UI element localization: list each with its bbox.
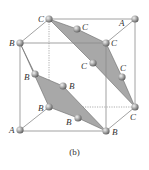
label-c-top-back-left: C: [38, 14, 45, 24]
atom-c-back-bottom-right: [131, 103, 138, 110]
edge-bottom-left-depth: [20, 107, 49, 130]
label-c-front-top-right: C: [111, 38, 118, 48]
atom-b-left-mid: [31, 70, 38, 77]
atom-b-center: [59, 82, 66, 89]
atom-c-right-mid: [118, 73, 125, 80]
label-c-right-mid: C: [120, 63, 127, 73]
label-a-front-bottom-left: A: [8, 125, 15, 135]
label-c-upper-mid: C: [82, 22, 89, 32]
atom-c-center-right: [89, 59, 96, 66]
atom-b-front-top-left: [16, 39, 23, 46]
atom-b-back-bottom-left: [45, 103, 52, 110]
label-b-left-mid: B: [24, 72, 30, 82]
crystal-structure-figure: C A C B C C B C B B C B A B (b): [0, 0, 149, 170]
figure-caption: (b): [0, 147, 149, 157]
atom-b-front-bottom-right: [102, 127, 109, 134]
atom-b-lower-mid: [74, 114, 81, 121]
atom-a-front-bottom-left: [16, 126, 23, 133]
atom-a-top-back-right: [131, 15, 138, 22]
label-b-front-bottom-right: B: [112, 127, 118, 137]
label-c-back-bottom-right: C: [130, 112, 137, 122]
label-b-lower-mid: B: [66, 117, 72, 127]
label-a-top-back-right: A: [118, 18, 125, 28]
atom-c-top-back-left: [45, 15, 52, 22]
label-b-back-bottom-left: B: [38, 103, 44, 113]
atom-c-upper-mid: [73, 25, 80, 32]
label-b-center: B: [69, 81, 75, 91]
edge-top-left-depth: [20, 19, 49, 43]
label-c-center-right: C: [81, 61, 88, 71]
label-b-front-top-left: B: [9, 38, 15, 48]
atom-c-front-top-right: [102, 39, 109, 46]
cube-diagram: C A C B C C B C B B C B A B: [0, 0, 149, 170]
